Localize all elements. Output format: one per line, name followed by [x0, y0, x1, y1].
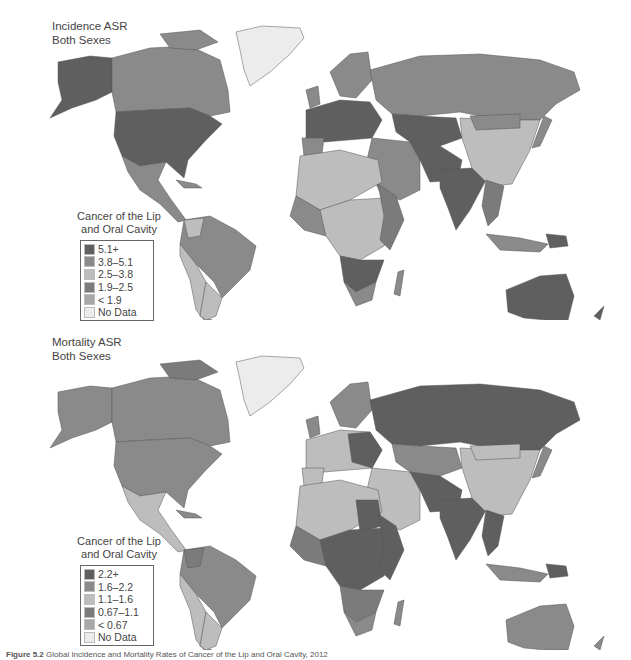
southeast-asia [482, 180, 504, 226]
swatch-lt-0-67 [84, 619, 95, 630]
legend-item: < 1.9 [84, 293, 150, 306]
papua [546, 564, 568, 578]
canada [112, 46, 230, 116]
swatch-no-data [84, 632, 95, 643]
swatch-0-67-1-1 [84, 607, 95, 618]
mortality-legend: Cancer of the Lip and Oral Cavity 2.2+ 1… [80, 535, 158, 646]
mortality-legend-title: Cancer of the Lip and Oral Cavity [74, 535, 164, 561]
scandinavia [330, 52, 372, 98]
legend-item: 3.8–5.1 [84, 256, 150, 269]
uk [306, 86, 320, 108]
incidence-legend: Cancer of the Lip and Oral Cavity 5.1+ 3… [80, 210, 158, 321]
legend-item: No Data [84, 631, 150, 644]
swatch-1-1-1-6 [84, 594, 95, 605]
western-europe [306, 100, 382, 142]
australia [506, 604, 574, 650]
legend-item: 0.67–1.1 [84, 606, 150, 619]
greenland [236, 26, 304, 86]
swatch-lt-1-9 [84, 294, 95, 305]
incidence-map-panel: Incidence ASR Both Sexes [0, 0, 631, 325]
swatch-no-data [84, 307, 95, 318]
mortality-legend-box: 2.2+ 1.6–2.2 1.1–1.6 0.67–1.1 < 0.67 No … [80, 565, 154, 646]
legend-item: 2.2+ [84, 568, 150, 581]
indonesia [486, 234, 548, 252]
figure-caption: Figure 5.2 Global Incidence and Mortalit… [6, 650, 328, 659]
alaska [50, 56, 112, 118]
australia [506, 274, 574, 320]
alaska [50, 386, 112, 448]
canada [112, 376, 230, 446]
legend-item: < 0.67 [84, 618, 150, 631]
papua [546, 234, 568, 248]
swatch-1-6-2-2 [84, 581, 95, 592]
figure-label: Figure 5.2 [6, 650, 44, 659]
incidence-legend-box: 5.1+ 3.8–5.1 2.5–3.8 1.9–2.5 < 1.9 No Da… [80, 240, 154, 321]
mongolia [470, 114, 520, 130]
swatch-2-2-plus [84, 569, 95, 580]
legend-item: 1.6–2.2 [84, 581, 150, 594]
madagascar [394, 270, 404, 296]
new-zealand [594, 636, 604, 650]
mongolia [470, 444, 520, 460]
swatch-2-5-3-8 [84, 269, 95, 280]
mortality-title-line1: Mortality ASR [52, 335, 122, 349]
figure-caption-text: Global Incidence and Mortality Rates of … [46, 650, 328, 659]
legend-item: 2.5–3.8 [84, 268, 150, 281]
new-zealand [594, 306, 604, 320]
legend-item: 1.1–1.6 [84, 593, 150, 606]
sudan [356, 500, 382, 532]
india [440, 498, 486, 560]
incidence-legend-title: Cancer of the Lip and Oral Cavity [74, 210, 164, 236]
swatch-5-1-plus [84, 244, 95, 255]
russia [370, 384, 580, 450]
scandinavia [330, 382, 372, 428]
swatch-3-8-5-1 [84, 256, 95, 267]
indonesia [486, 564, 548, 582]
swatch-1-9-2-5 [84, 282, 95, 293]
legend-item: 1.9–2.5 [84, 281, 150, 294]
mortality-map-panel: Mortality ASR Both Sexes [0, 330, 631, 640]
uk [306, 416, 320, 438]
southeast-asia [482, 510, 504, 556]
legend-item: 5.1+ [84, 243, 150, 256]
greenland [236, 356, 304, 416]
russia [370, 54, 580, 120]
madagascar [394, 600, 404, 626]
legend-item: No Data [84, 306, 150, 319]
india [440, 168, 486, 230]
